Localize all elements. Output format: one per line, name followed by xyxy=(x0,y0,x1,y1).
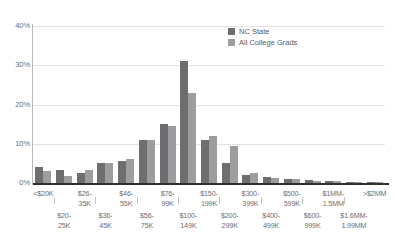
x-axis-tick-label-line: 149K xyxy=(165,221,211,231)
bar xyxy=(118,161,126,183)
bar xyxy=(105,163,113,183)
bar xyxy=(201,140,209,183)
bar xyxy=(160,124,168,183)
x-axis-tick-label-line: 75K xyxy=(124,221,170,231)
x-axis-tick-mark xyxy=(261,197,262,204)
legend-item-all-college-grads: All College Grads xyxy=(228,38,297,47)
bar xyxy=(35,167,43,183)
y-axis-tick-label: 10% xyxy=(2,140,30,148)
x-axis-tick-label: $26-35K xyxy=(62,189,108,208)
x-axis-tick-label-line: <$20K xyxy=(20,189,66,199)
bar-group xyxy=(118,26,134,183)
x-axis-tick-label: $500-599K xyxy=(269,189,315,208)
x-axis-tick-label-line: $56- xyxy=(124,211,170,221)
plot-area xyxy=(33,26,385,183)
x-axis-tick-label-line: 35K xyxy=(62,199,108,209)
income-distribution-bar-chart: 0%10%20%30%40% NC State All College Grad… xyxy=(0,0,395,240)
x-axis-tick-label-line: $36- xyxy=(82,211,128,221)
bar xyxy=(56,170,64,183)
bar-group xyxy=(263,26,279,183)
bar-group xyxy=(160,26,176,183)
x-axis-tick-label-line: 1.5MM xyxy=(310,199,356,209)
x-axis-tick-label-line: $300- xyxy=(227,189,273,199)
bar xyxy=(43,171,51,183)
x-axis-tick-label-line: $150- xyxy=(186,189,232,199)
bar xyxy=(168,126,176,183)
bar xyxy=(222,163,230,183)
x-axis-tick-label-line: 599K xyxy=(269,199,315,209)
bar xyxy=(64,176,72,183)
x-axis-tick-label-line: $100- xyxy=(165,211,211,221)
x-axis-tick-label-line: 399K xyxy=(227,199,273,209)
x-axis-tick-label: <$20K xyxy=(20,189,66,199)
x-axis-tick-label-line: $76- xyxy=(145,189,191,199)
bar xyxy=(242,175,250,183)
y-axis-tick-label: 30% xyxy=(2,61,30,69)
x-axis-tick-label-line: 199K xyxy=(186,199,232,209)
x-axis-tick-label-line: 45K xyxy=(82,221,128,231)
x-axis-tick-label-line: 499K xyxy=(248,221,294,231)
x-axis-tick-label: $300-399K xyxy=(227,189,273,208)
x-axis-tick-label: $100-149K xyxy=(165,211,211,230)
bar-group xyxy=(35,26,51,183)
x-axis-tick-labels: <$20K$20-25K$26-35K$36-45K$46-55K$56-75K… xyxy=(0,186,395,240)
x-axis-tick-label: $46-55K xyxy=(103,189,149,208)
x-axis-tick-label: $56-75K xyxy=(124,211,170,230)
x-axis-tick-label-line: 25K xyxy=(41,221,87,231)
bar-group xyxy=(139,26,155,183)
bar-group xyxy=(367,26,383,183)
x-axis-tick-mark xyxy=(219,197,220,204)
x-axis-line xyxy=(33,183,389,185)
bar xyxy=(97,163,105,183)
bar xyxy=(77,173,85,183)
bar-group xyxy=(56,26,72,183)
x-axis-tick-label-line: $1MM- xyxy=(310,189,356,199)
x-axis-tick-label: >$2MM xyxy=(352,189,395,199)
bar-group xyxy=(346,26,362,183)
x-axis-tick-label-line: 999K xyxy=(290,221,336,231)
x-axis-tick-label-line: 99K xyxy=(145,199,191,209)
x-axis-tick-label-line: $600- xyxy=(290,211,336,221)
chart-legend: NC State All College Grads xyxy=(228,27,297,47)
x-axis-tick-label: $600-999K xyxy=(290,211,336,230)
x-axis-tick-mark xyxy=(344,197,345,204)
bar xyxy=(85,170,93,183)
x-axis-tick-label-line: $46- xyxy=(103,189,149,199)
x-axis-tick-mark xyxy=(54,197,55,204)
legend-label: All College Grads xyxy=(239,38,297,47)
x-axis-tick-label-line: $1.6MM- xyxy=(331,211,377,221)
bar xyxy=(180,61,188,183)
y-axis-tick-label: 20% xyxy=(2,101,30,109)
bar xyxy=(250,173,258,183)
y-axis-tick-label: 40% xyxy=(2,22,30,30)
x-axis-tick-label-line: 1.99MM xyxy=(331,221,377,231)
x-axis-tick-mark xyxy=(302,197,303,204)
x-axis-tick-label: $36-45K xyxy=(82,211,128,230)
bar-group xyxy=(284,26,300,183)
x-axis-tick-label: $200-299K xyxy=(207,211,253,230)
bar xyxy=(147,140,155,183)
legend-label: NC State xyxy=(239,27,269,36)
bar-group xyxy=(242,26,258,183)
x-axis-tick-label: $76-99K xyxy=(145,189,191,208)
x-axis-tick-label-line: $20- xyxy=(41,211,87,221)
bar-group xyxy=(77,26,93,183)
bar xyxy=(188,93,196,183)
legend-swatch-icon xyxy=(228,28,235,35)
x-axis-tick-label-line: $200- xyxy=(207,211,253,221)
bar-group xyxy=(201,26,217,183)
x-axis-tick-label-line: 55K xyxy=(103,199,149,209)
x-axis-tick-label-line: >$2MM xyxy=(352,189,395,199)
x-axis-tick-label: $400-499K xyxy=(248,211,294,230)
bar xyxy=(230,146,238,183)
bar-group xyxy=(180,26,196,183)
bar-group xyxy=(325,26,341,183)
legend-item-nc-state: NC State xyxy=(228,27,297,36)
x-axis-tick-label-line: $400- xyxy=(248,211,294,221)
x-axis-tick-label: $150-199K xyxy=(186,189,232,208)
x-axis-tick-label-line: 299K xyxy=(207,221,253,231)
bar-group xyxy=(97,26,113,183)
bar-group xyxy=(305,26,321,183)
bar-group xyxy=(222,26,238,183)
bars-layer xyxy=(33,26,385,183)
